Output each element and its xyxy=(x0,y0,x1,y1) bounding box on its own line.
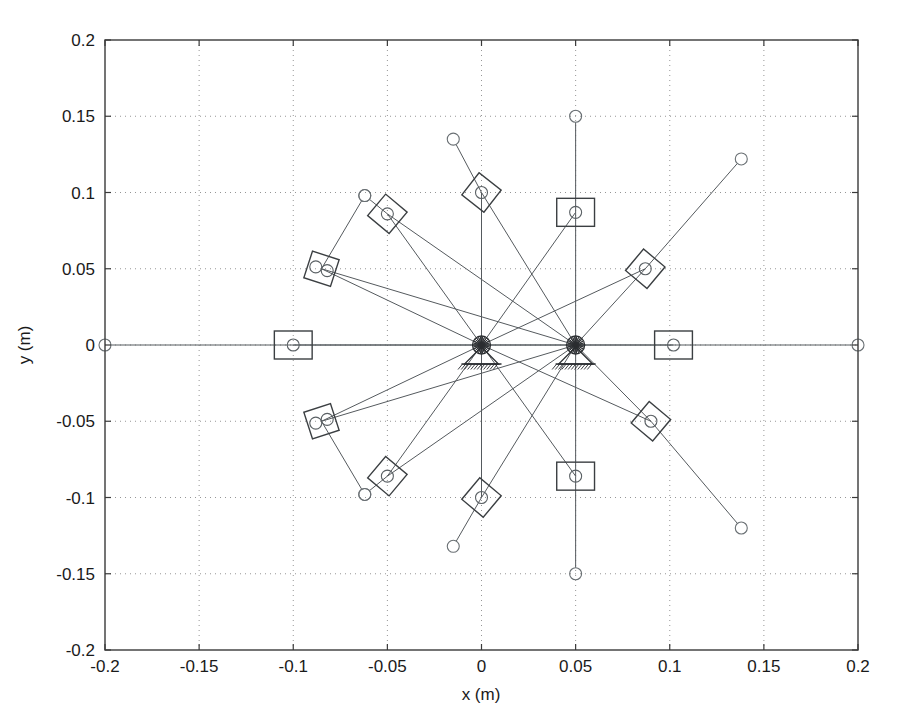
x-tick-label: 0.1 xyxy=(658,657,682,676)
link-line xyxy=(576,345,651,421)
tip-extension-line xyxy=(651,421,737,523)
tip-extension-line xyxy=(456,498,481,542)
x-axis-title: x (m) xyxy=(462,685,501,704)
x-tick-label: -0.15 xyxy=(180,657,219,676)
link-line xyxy=(321,269,575,345)
pose-tip-circle xyxy=(735,153,747,165)
x-tick-label: 0.2 xyxy=(846,657,870,676)
link-line xyxy=(321,345,481,421)
y-tick-label: 0.2 xyxy=(71,31,95,50)
x-tick-label: 0.05 xyxy=(559,657,592,676)
y-tick-label: -0.05 xyxy=(56,412,95,431)
y-tick-label: -0.2 xyxy=(66,641,95,660)
pose-tip-circle xyxy=(447,133,459,145)
pose-tip-circle xyxy=(735,522,747,534)
pose-tip-circle xyxy=(359,488,371,500)
tip-extension-line xyxy=(369,476,387,491)
y-tick-label: -0.15 xyxy=(56,565,95,584)
x-tick-label: 0 xyxy=(477,657,486,676)
x-tick-label: -0.1 xyxy=(279,657,308,676)
x-tick-label: 0.15 xyxy=(747,657,780,676)
tip-extension-line xyxy=(369,199,387,214)
link-line xyxy=(321,345,575,421)
link-line xyxy=(482,212,576,345)
link-line xyxy=(482,269,646,345)
y-tick-label: 0.15 xyxy=(62,107,95,126)
tip-extension-line xyxy=(645,163,737,268)
pose-joint-circle xyxy=(310,261,322,273)
link-line xyxy=(576,269,646,345)
y-tick-label: 0.05 xyxy=(62,260,95,279)
y-tick-label: 0 xyxy=(86,336,95,355)
y-tick-label: 0.1 xyxy=(71,184,95,203)
y-tick-label: -0.1 xyxy=(66,489,95,508)
link-line xyxy=(387,214,481,345)
mechanism-workspace-figure: -0.2-0.15-0.1-0.0500.050.10.150.20.20.15… xyxy=(0,0,899,726)
pose-joint-circle xyxy=(310,417,322,429)
y-axis-title: y (m) xyxy=(15,326,34,365)
ground-pivots xyxy=(458,336,596,370)
plot-canvas: -0.2-0.15-0.1-0.0500.050.10.150.20.20.15… xyxy=(0,0,899,726)
tip-extension-line xyxy=(321,201,361,269)
x-tick-label: -0.05 xyxy=(368,657,407,676)
pose-tip-circle xyxy=(447,540,459,552)
link-line xyxy=(321,269,481,345)
tip-extension-line xyxy=(321,421,361,489)
pose-tip-circle xyxy=(359,190,371,202)
